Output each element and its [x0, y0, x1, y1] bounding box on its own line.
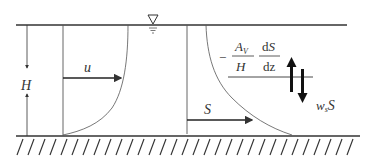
svg-text:H: H — [235, 59, 246, 74]
bed-hatching — [17, 139, 353, 155]
upward-flux-arrow — [287, 57, 297, 92]
svg-text:dS: dS — [262, 39, 276, 54]
downward-settling-arrow — [298, 69, 308, 103]
depth-label: H — [20, 78, 32, 93]
velocity-profile-curve — [63, 25, 128, 135]
velocity-label: u — [84, 60, 91, 75]
svg-text:dz: dz — [263, 59, 276, 74]
sediment-profile-diagram: H u S − AV H dS dz wsS — [0, 0, 373, 164]
settling-flux-label: wsS — [316, 98, 335, 114]
water-level-icon — [148, 15, 158, 33]
svg-text:AV: AV — [234, 39, 249, 56]
diffusion-flux-formula: − AV H dS dz — [219, 39, 280, 74]
svg-text:−: − — [219, 50, 226, 65]
concentration-label: S — [204, 102, 211, 117]
concentration-profile-curve — [206, 25, 292, 135]
